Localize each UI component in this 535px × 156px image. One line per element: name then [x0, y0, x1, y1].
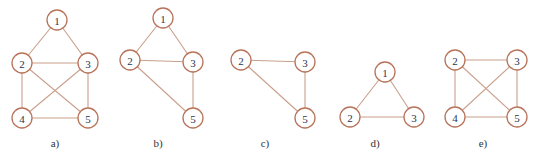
node-5: 5 — [295, 108, 315, 128]
graph-b-nodes: 1235 — [120, 8, 203, 128]
node-label: 5 — [190, 113, 196, 125]
graph-c-edges — [241, 60, 305, 118]
node-label: 1 — [160, 13, 166, 25]
node-label: 3 — [514, 55, 520, 67]
node-2: 2 — [231, 50, 251, 70]
node-3: 3 — [78, 53, 98, 73]
node-label: 1 — [382, 67, 388, 79]
graph-figure: 1234512352351232345 a)b)c)d)e) — [0, 0, 535, 156]
caption-d: d) — [370, 137, 380, 150]
node-label: 3 — [411, 112, 417, 124]
node-label: 3 — [190, 57, 196, 69]
captions-layer: a)b)c)d)e) — [51, 137, 488, 150]
node-3: 3 — [183, 52, 203, 72]
edge-2-5 — [241, 60, 305, 118]
node-2: 2 — [120, 50, 140, 70]
node-1: 1 — [47, 10, 67, 30]
node-5: 5 — [78, 108, 98, 128]
caption-e: e) — [479, 137, 488, 150]
caption-c: c) — [261, 137, 270, 150]
node-3: 3 — [404, 107, 424, 127]
edge-2-5 — [130, 60, 193, 118]
nodes-layer: 1234512352351232345 — [12, 8, 527, 128]
node-label: 2 — [19, 58, 25, 70]
node-label: 2 — [238, 55, 244, 67]
node-label: 5 — [302, 113, 308, 125]
node-5: 5 — [507, 107, 527, 127]
node-label: 2 — [452, 55, 458, 67]
node-label: 2 — [127, 55, 133, 67]
caption-b: b) — [153, 137, 163, 150]
node-2: 2 — [340, 107, 360, 127]
node-3: 3 — [295, 52, 315, 72]
node-label: 2 — [347, 112, 353, 124]
graph-a-nodes: 12345 — [12, 10, 98, 128]
node-label: 5 — [85, 113, 91, 125]
node-1: 1 — [375, 62, 395, 82]
graph-e-edges — [455, 60, 517, 117]
node-5: 5 — [183, 108, 203, 128]
node-4: 4 — [445, 107, 465, 127]
node-2: 2 — [12, 53, 32, 73]
node-label: 3 — [85, 58, 91, 70]
node-label: 3 — [302, 57, 308, 69]
node-label: 1 — [54, 15, 60, 27]
graph-b-edges — [130, 18, 193, 118]
node-3: 3 — [507, 50, 527, 70]
node-1: 1 — [153, 8, 173, 28]
node-4: 4 — [12, 108, 32, 128]
node-label: 5 — [514, 112, 520, 124]
caption-a: a) — [51, 137, 60, 150]
graph-a-edges — [22, 20, 88, 118]
node-2: 2 — [445, 50, 465, 70]
node-label: 4 — [19, 113, 25, 125]
node-label: 4 — [452, 112, 458, 124]
